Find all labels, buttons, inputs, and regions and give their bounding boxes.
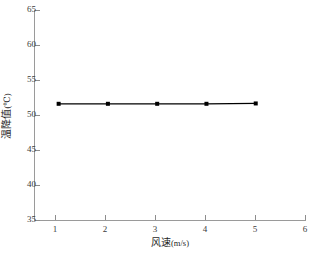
- data-point-marker: [57, 102, 61, 106]
- y-axis-title-unit: (℃): [2, 93, 12, 108]
- x-axis-title-text: 风速: [151, 237, 171, 248]
- data-point-marker: [204, 102, 208, 106]
- y-axis-title-text: 温降值: [1, 108, 12, 138]
- x-axis-title-unit: (m/s): [171, 238, 189, 248]
- data-point-marker: [155, 102, 159, 106]
- data-series-layer: [0, 0, 314, 267]
- y-axis-title: 温降值(℃): [1, 93, 13, 138]
- data-point-marker: [106, 102, 110, 106]
- data-point-marker: [254, 101, 258, 105]
- x-axis-title: 风速(m/s): [34, 237, 306, 249]
- chart-figure: 65 60 55 50 45 40 35 1 2 3 4 5 6 风速(m/s)…: [0, 0, 314, 267]
- y-axis-title-wrap: 温降值(℃): [0, 10, 14, 221]
